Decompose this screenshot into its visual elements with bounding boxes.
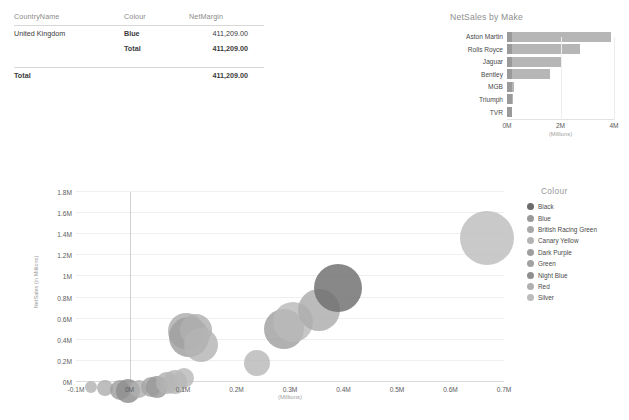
bubble-x-tick-label: 0.7M [497,386,512,393]
cell-netmargin-subtotal: 411,209.00 [189,41,264,56]
legend-item-label: Green [538,260,556,267]
matrix: CountryName Colour NetMargin United King… [14,10,264,83]
table-header-row: CountryName Colour NetMargin [14,10,264,26]
legend-swatch-circle-icon [527,249,534,256]
legend-item-label: Red [538,283,550,290]
bar-fill[interactable] [507,82,514,92]
column-header-countryname[interactable]: CountryName [14,10,124,26]
netmargin-matrix-table[interactable]: CountryName Colour NetMargin United King… [14,10,264,83]
bubble-gridline-horizontal [76,212,504,213]
bar-category-label: Bentley [443,71,507,78]
legend-item[interactable]: British Racing Green [527,224,627,235]
legend-item-label: Black [538,203,554,210]
column-header-netmargin[interactable]: NetMargin [189,10,264,26]
legend-item-label: Blue [538,215,551,222]
bar-plot-area: Aston MartinRolls RoyceJaguarBentleyMGBT… [443,31,623,118]
y-axis-title-line2: (in Millions) [33,256,39,284]
bubble-y-tick-label: 1.6M [57,210,72,217]
bar-row[interactable]: Jaguar [443,56,623,67]
table-row-subtotal[interactable]: Total 411,209.00 [14,41,264,56]
bar-row[interactable]: MGB [443,81,623,92]
legend-item[interactable]: Black [527,201,627,212]
bar-fill[interactable] [507,69,550,79]
bar-fill[interactable] [507,32,611,42]
legend-item-label: Canary Yellow [538,237,579,244]
cell-netmargin: 411,209.00 [189,26,264,42]
legend-item[interactable]: Silver [527,292,627,303]
bar-x-tick-label: 2M [556,122,565,129]
legend-item[interactable]: Night Blue [527,269,627,280]
bar-category-label: Triumph [443,96,507,103]
bar-fill[interactable] [507,44,580,54]
bubble-x-tick-label: 0.3M [283,386,298,393]
bubble-y-tick-label: 0M [63,379,72,386]
cell-country: United Kingdom [14,26,124,42]
bar-row[interactable]: Bentley [443,69,623,80]
bubble-x-tick-label: -0.1M [68,386,85,393]
bar-row[interactable]: Aston Martin [443,31,623,42]
bubble-gridline-zero [130,192,131,382]
bubble-y-tick-label: 1.4M [57,231,72,238]
bubble-gridline-horizontal [76,191,504,192]
column-header-colour[interactable]: Colour [124,10,189,26]
bubble-x-tick-label: 0.6M [443,386,458,393]
legend-swatch-circle-icon [527,203,534,210]
bubble-point[interactable] [244,350,270,376]
legend-swatch-circle-icon [527,272,534,279]
bubble-y-tick-label: 0.2M [57,357,72,364]
cell-colour: Blue [124,26,189,42]
bubble-y-tick-label: 1.2M [57,252,72,259]
legend-item[interactable]: Canary Yellow [527,235,627,246]
legend-swatch-circle-icon [527,260,534,267]
bubble-gridline-horizontal [76,254,504,255]
bubble-x-tick-label: 0.1M [176,386,191,393]
legend-swatch-circle-icon [527,283,534,290]
cell-country-empty [14,41,124,56]
bubble-point[interactable] [460,211,514,265]
bubble-x-tick-label: 0.5M [390,386,405,393]
legend-item[interactable]: Dark Purple [527,247,627,258]
legend-swatch-circle-icon [527,226,534,233]
bubble-x-tick-label: 0.2M [229,386,244,393]
bar-chart-title: NetSales by Make [450,12,623,22]
bar-row[interactable]: TVR [443,107,623,118]
bar-gridline [614,37,615,120]
bubble-chart-y-axis: 0M0.2M0.4M0.6M0.8M1M1.2M1.4M1.6M1.8M [36,192,72,382]
bar-fill[interactable] [507,107,512,117]
bubble-plot-area[interactable] [76,192,504,382]
bubble-y-tick-label: 0.4M [57,336,72,343]
bubble-point[interactable] [184,328,218,362]
netsales-by-make-bar-chart[interactable]: NetSales by Make Aston MartinRolls Royce… [443,12,623,150]
legend-item[interactable]: Red [527,281,627,292]
bubble-gridline-horizontal [76,275,504,276]
bar-x-tick-label: 4M [609,122,618,129]
legend-item-label: Silver [538,294,554,301]
bubble-y-tick-label: 1M [63,273,72,280]
bubble-y-tick-label: 1.8M [57,189,72,196]
bar-gridline [561,37,562,120]
table-row[interactable]: United Kingdom Blue 411,209.00 [14,26,264,42]
bar-category-label: MGB [443,83,507,90]
cell-colour-total: Total [124,41,189,56]
bar-row[interactable]: Triumph [443,94,623,105]
bubble-point[interactable] [314,264,362,312]
legend-item[interactable]: Blue [527,212,627,223]
bar-fill[interactable] [507,94,513,104]
legend-item-label: Night Blue [538,272,568,279]
bar-fill[interactable] [507,57,561,67]
bubble-gridline-horizontal [76,233,504,234]
bar-row[interactable]: Rolls Royce [443,44,623,55]
bar-category-label: TVR [443,109,507,116]
legend-swatch-circle-icon [527,215,534,222]
legend-swatch-circle-icon [527,237,534,244]
table-row-grand-total[interactable]: Total 411,209.00 [14,68,264,84]
legend-swatch-circle-icon [527,294,534,301]
legend-item[interactable]: Green [527,258,627,269]
legend-item-label: British Racing Green [538,226,597,233]
bubble-gridline-horizontal [76,297,504,298]
colour-legend[interactable]: Colour BlackBlueBritish Racing GreenCana… [527,186,627,304]
cell-grand-total-value: 411,209.00 [189,68,264,84]
bar-x-tick-label: 0M [502,122,511,129]
bar-chart-x-axis-title: (Millions) [549,131,572,137]
bubble-x-tick-label: 0M [125,386,134,393]
